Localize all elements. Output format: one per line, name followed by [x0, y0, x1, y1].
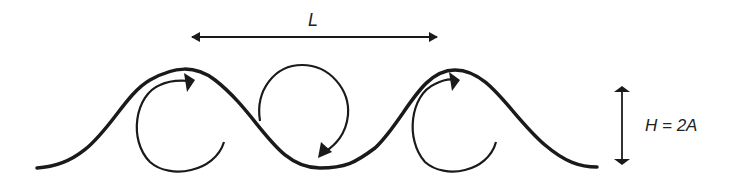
height-label: H = 2A	[645, 116, 697, 135]
wavelength-arrow	[191, 32, 438, 42]
wave-profile	[37, 69, 597, 168]
wave-diagram: L H = 2A	[0, 0, 752, 191]
height-arrow	[614, 86, 630, 165]
wavelength-label: L	[308, 10, 318, 30]
orbital-circulation-1	[137, 73, 224, 172]
orbital-circulation-3	[413, 72, 496, 172]
